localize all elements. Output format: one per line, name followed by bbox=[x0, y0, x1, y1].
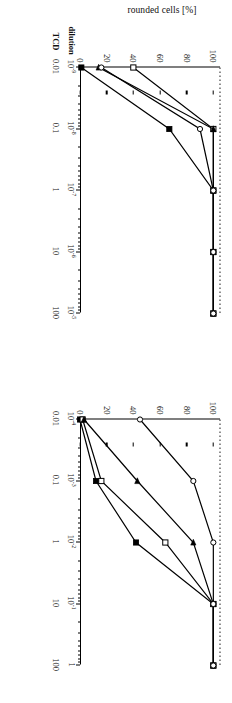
x-minor-tick bbox=[78, 183, 80, 184]
x-minor-tick bbox=[78, 600, 80, 601]
x-minor-tick bbox=[78, 461, 80, 462]
x-minor-tick bbox=[78, 165, 80, 166]
x-tick-label-dilution: 10-4 bbox=[66, 411, 77, 424]
x-minor-tick bbox=[78, 85, 80, 86]
x-minor-tick bbox=[78, 470, 80, 471]
y-tick-mark bbox=[213, 442, 214, 446]
x-minor-tick bbox=[78, 578, 80, 579]
y-tick-mark bbox=[106, 442, 107, 446]
x-minor-tick bbox=[78, 170, 80, 171]
rotated-figure-wrapper: rounded cells [%] 020406080100 10-90.011… bbox=[0, 0, 232, 703]
x-axis-title-tcd-left: TCD bbox=[51, 32, 61, 50]
y-axis-ticks-right: 020406080100 bbox=[80, 388, 220, 416]
x-minor-tick bbox=[78, 293, 80, 294]
x-axis-ticks-right: 10-40.0110-30.110-2110-1101100 bbox=[38, 418, 80, 664]
x-axis-title-dilution-left: dilution bbox=[67, 26, 77, 54]
x-tick-label-tcd: 0.01 bbox=[51, 411, 61, 426]
data-point-open-circle bbox=[211, 310, 216, 315]
y-tick-mark bbox=[133, 442, 134, 446]
x-minor-tick bbox=[78, 122, 80, 123]
y-tick-label: 60 bbox=[155, 388, 165, 414]
y-tick-label: 100 bbox=[208, 36, 218, 62]
y-tick-label: 80 bbox=[182, 36, 192, 62]
plot-area-right bbox=[80, 418, 220, 664]
x-minor-tick bbox=[78, 226, 80, 227]
y-tick-label: 20 bbox=[102, 36, 112, 62]
data-point-open-square bbox=[131, 64, 136, 69]
x-minor-tick bbox=[78, 237, 80, 238]
data-point-open-square bbox=[163, 539, 168, 544]
x-minor-tick bbox=[78, 114, 80, 115]
x-minor-tick bbox=[78, 661, 80, 662]
y-tick-label: 80 bbox=[182, 388, 192, 414]
x-minor-tick bbox=[78, 309, 80, 310]
x-minor-tick bbox=[78, 280, 80, 281]
x-minor-tick bbox=[78, 640, 80, 641]
x-minor-tick bbox=[78, 527, 80, 528]
x-minor-tick bbox=[78, 245, 80, 246]
x-minor-tick bbox=[78, 179, 80, 180]
x-minor-tick bbox=[78, 498, 80, 499]
data-point-open-square bbox=[99, 478, 104, 483]
plot-lines-right bbox=[80, 419, 220, 665]
x-minor-tick bbox=[78, 218, 80, 219]
x-minor-tick bbox=[78, 654, 80, 655]
x-minor-tick bbox=[78, 302, 80, 303]
x-minor-tick bbox=[78, 538, 80, 539]
x-minor-tick bbox=[78, 477, 80, 478]
x-tick-label-dilution: 10-7 bbox=[66, 182, 77, 195]
x-minor-tick bbox=[78, 437, 80, 438]
x-minor-tick bbox=[78, 466, 80, 467]
x-tick-label-dilution: 10-2 bbox=[66, 534, 77, 547]
y-axis-ticks-left: 020406080100 bbox=[80, 36, 220, 64]
x-minor-tick bbox=[78, 175, 80, 176]
x-minor-tick bbox=[78, 455, 80, 456]
x-axis-ticks-left: 10-90.0110-80.110-7110-61010-5100 bbox=[38, 66, 80, 312]
x-minor-tick bbox=[78, 146, 80, 147]
plot-lines-left bbox=[80, 67, 220, 313]
y-axis-title-left: rounded cells [%] bbox=[92, 4, 232, 20]
x-tick-label-dilution: 10-1 bbox=[66, 596, 77, 609]
x-tick-label-dilution: 10-9 bbox=[66, 59, 77, 72]
data-point-open-circle bbox=[137, 416, 142, 421]
chart-panel-right: 020406080100 10-40.0110-30.110-2110-1101… bbox=[0, 360, 232, 690]
series-line bbox=[133, 67, 213, 313]
y-tick-mark bbox=[186, 442, 187, 446]
data-point-open-circle bbox=[211, 662, 216, 667]
series-line bbox=[81, 67, 213, 313]
x-minor-tick bbox=[78, 584, 80, 585]
x-tick-label-tcd: 0.1 bbox=[51, 474, 61, 485]
x-minor-tick bbox=[78, 509, 80, 510]
x-tick-label-dilution: 1 bbox=[67, 662, 77, 666]
x-minor-tick bbox=[78, 118, 80, 119]
y-tick-mark bbox=[186, 90, 187, 94]
plot-area-left bbox=[80, 66, 220, 312]
x-minor-tick bbox=[78, 645, 80, 646]
x-minor-tick bbox=[78, 95, 80, 96]
data-point-filled-square bbox=[167, 126, 172, 131]
x-minor-tick bbox=[78, 632, 80, 633]
x-tick-label-tcd: 10 bbox=[51, 598, 61, 607]
data-point-open-circle bbox=[99, 64, 104, 69]
data-point-open-circle bbox=[211, 601, 216, 606]
x-minor-tick bbox=[78, 186, 80, 187]
data-point-open-circle bbox=[211, 249, 216, 254]
x-tick-label-tcd: 1 bbox=[51, 187, 61, 191]
x-minor-tick bbox=[78, 269, 80, 270]
x-tick-label-tcd: 10 bbox=[51, 246, 61, 255]
x-minor-tick bbox=[78, 531, 80, 532]
x-minor-tick bbox=[78, 103, 80, 104]
x-tick-label-tcd: 100 bbox=[51, 658, 61, 671]
data-point-open-circle bbox=[211, 187, 216, 192]
x-minor-tick bbox=[78, 125, 80, 126]
x-minor-tick bbox=[78, 208, 80, 209]
x-minor-tick bbox=[78, 157, 80, 158]
x-minor-tick bbox=[78, 522, 80, 523]
x-minor-tick bbox=[78, 658, 80, 659]
x-minor-tick bbox=[78, 589, 80, 590]
data-point-open-circle bbox=[211, 539, 216, 544]
y-tick-label: 40 bbox=[128, 388, 138, 414]
x-minor-tick bbox=[78, 560, 80, 561]
series-line bbox=[140, 419, 213, 665]
y-tick-label: 100 bbox=[208, 388, 218, 414]
